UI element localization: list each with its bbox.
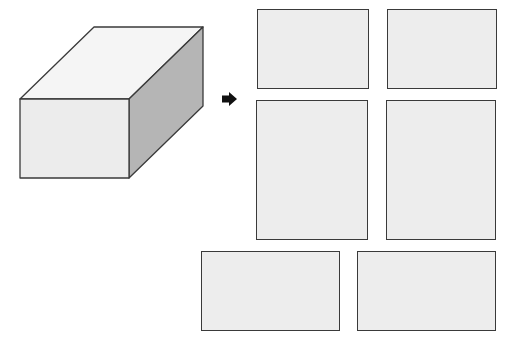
face-top-left: [257, 9, 369, 89]
face-bottom-right: [357, 251, 496, 331]
right-arrow-icon: [222, 92, 238, 106]
face-top-right: [387, 9, 497, 89]
prism-front-face: [20, 99, 129, 178]
diagram-canvas: [0, 0, 513, 342]
face-middle-left: [256, 100, 368, 240]
face-bottom-left: [201, 251, 340, 331]
face-middle-right: [386, 100, 496, 240]
